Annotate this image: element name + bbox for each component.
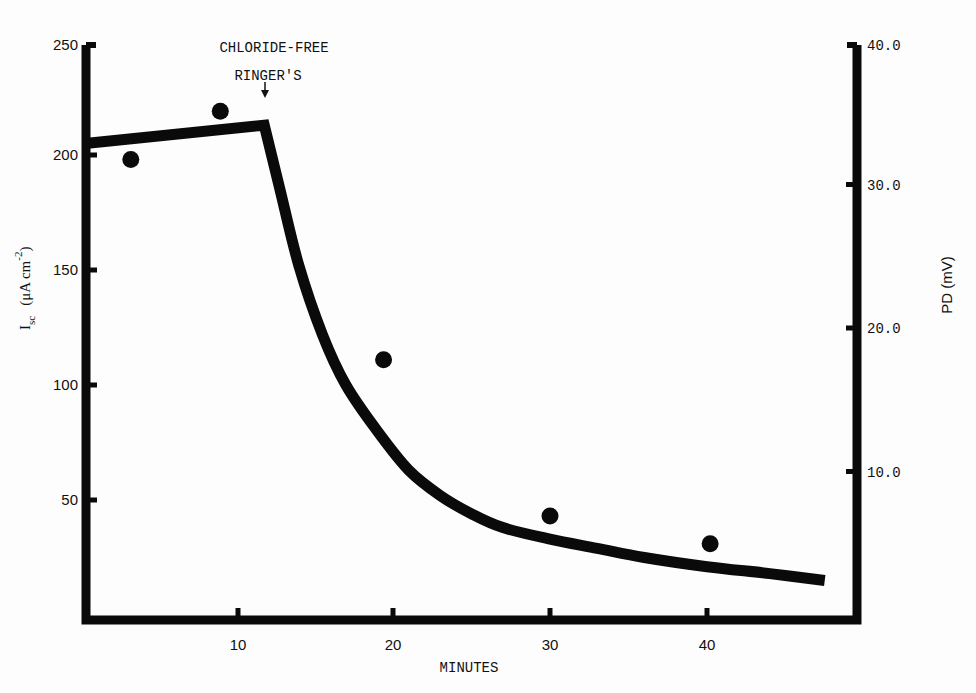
arrow-down-icon (261, 82, 269, 98)
x-tick-label: 10 (230, 636, 247, 653)
annotation-chloride-free: CHLORIDE-FREE RINGER'S (219, 40, 328, 98)
x-axis-label: MINUTES (440, 660, 499, 676)
svg-text:RINGER'S: RINGER'S (234, 68, 301, 84)
svg-text:Isc(μA cm-2): Isc(μA cm-2) (12, 247, 37, 330)
y2-tick-label: 30.0 (867, 178, 901, 194)
x-tick-label: 30 (542, 636, 559, 653)
data-point (702, 535, 719, 552)
data-point (375, 351, 392, 368)
x-tick-label: 40 (699, 636, 716, 653)
y2-tick-label: 10.0 (867, 465, 901, 481)
y-axis-label: Isc(μA cm-2) (12, 247, 37, 330)
x-tick-label: 20 (385, 636, 402, 653)
y-tick-label: 50 (61, 491, 78, 508)
y-tick-label: 150 (53, 261, 78, 278)
y2-tick-label: 20.0 (867, 321, 901, 337)
y-tick-label: 200 (53, 146, 78, 163)
chart-canvas: 5010015020025010.020.030.040.010203040 M… (0, 0, 976, 693)
y-tick-label: 100 (53, 376, 78, 393)
isc-curve (85, 125, 824, 580)
y2-tick-label: 40.0 (867, 38, 901, 54)
data-point (542, 508, 559, 525)
y2-axis-label: PD (mV) (938, 256, 955, 314)
data-point (122, 151, 139, 168)
isc-line (85, 125, 824, 580)
y-tick-label: 250 (53, 36, 78, 53)
svg-text:CHLORIDE-FREE: CHLORIDE-FREE (219, 40, 328, 56)
data-point (212, 103, 229, 120)
